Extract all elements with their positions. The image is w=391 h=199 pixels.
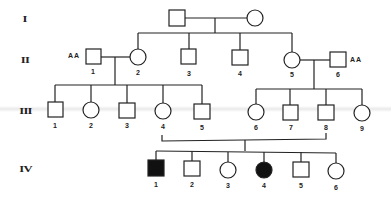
marriage-line-III4-III8	[162, 133, 326, 141]
male-symbol-III-3	[119, 103, 135, 118]
female-symbol-I-2	[247, 10, 263, 26]
male-symbol-II-3	[181, 49, 196, 64]
individual-label-IV-4: 4	[257, 182, 271, 189]
individual-label-II-2: 2	[131, 69, 145, 76]
individual-label-IV-3: 3	[221, 182, 235, 189]
individual-label-IV-6: 6	[329, 184, 343, 191]
female-symbol-III-9	[354, 105, 370, 121]
female-symbol-III-2	[83, 102, 99, 118]
individual-label-III-8: 8	[319, 124, 333, 131]
male-symbol-II-1	[86, 49, 101, 64]
female-symbol-II-2	[130, 49, 146, 65]
individual-label-II-3: 3	[182, 70, 196, 77]
individual-label-III-3: 3	[120, 122, 134, 129]
female-symbol-II-5	[284, 52, 300, 68]
generation-label-IV: IV	[19, 164, 32, 174]
affected-female-symbol-IV-4	[256, 162, 272, 178]
sibship-line-IV	[156, 151, 336, 153]
individual-label-III-1: 1	[48, 122, 62, 129]
male-symbol-III-8	[318, 105, 334, 120]
individual-label-III-4: 4	[156, 123, 170, 130]
female-symbol-III-4	[155, 103, 171, 119]
male-symbol-I-1	[169, 10, 185, 26]
male-symbol-II-4	[232, 50, 248, 65]
individual-label-III-2: 2	[84, 122, 98, 129]
genotype-label-II-1: AA	[68, 52, 80, 59]
male-symbol-III-7	[283, 105, 298, 120]
individual-label-III-6: 6	[249, 124, 263, 131]
individual-label-IV-1: 1	[149, 181, 163, 188]
individual-label-II-6: 6	[331, 71, 345, 78]
male-symbol-IV-2	[184, 161, 200, 176]
individual-label-III-7: 7	[284, 124, 298, 131]
male-symbol-IV-5	[293, 162, 309, 177]
generation-label-I: I	[22, 14, 26, 24]
individual-label-II-5: 5	[285, 71, 299, 78]
male-symbol-II-6	[330, 52, 346, 67]
individual-label-III-9: 9	[355, 125, 369, 132]
individual-label-IV-5: 5	[294, 182, 308, 189]
individual-label-II-1: 1	[86, 68, 100, 75]
individual-label-IV-2: 2	[185, 181, 199, 188]
affected-male-symbol-IV-1	[148, 160, 164, 176]
pedigree-chart	[0, 0, 391, 199]
female-symbol-IV-6	[328, 163, 344, 179]
individual-label-III-5: 5	[195, 124, 209, 131]
male-symbol-III-1	[48, 102, 63, 117]
female-symbol-III-6	[248, 104, 264, 120]
generation-label-II: II	[21, 55, 29, 65]
genotype-label-II-6: AA	[350, 56, 362, 63]
generation-label-III: III	[19, 106, 32, 116]
male-symbol-III-5	[194, 104, 210, 119]
female-symbol-IV-3	[220, 162, 236, 178]
individual-label-II-4: 4	[233, 70, 247, 77]
